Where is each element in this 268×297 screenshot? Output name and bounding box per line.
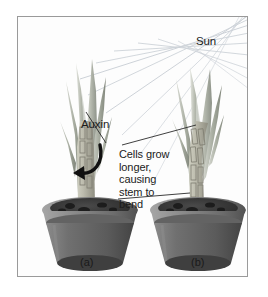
panel-label-a: (a) [80, 256, 93, 268]
panel-label-b: (b) [191, 256, 204, 268]
cells-grow-label: Cells grow longer, causing stem to bend [119, 148, 169, 211]
diagram-canvas [18, 17, 247, 276]
cells-leader-line-top [122, 125, 196, 145]
auxin-label: Auxin [81, 118, 109, 131]
sun-label: Sun [196, 35, 216, 48]
figure-frame: Sun Auxin Cells grow longer, causing ste… [17, 16, 248, 277]
phototropism-figure: Sun Auxin Cells grow longer, causing ste… [0, 0, 268, 297]
plant-a [60, 59, 112, 207]
